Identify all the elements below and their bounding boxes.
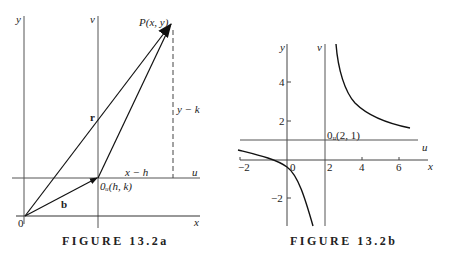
y-tick-neg2: −2 bbox=[271, 193, 283, 204]
figures-canvas bbox=[0, 0, 449, 255]
y-tick-4: 4 bbox=[279, 77, 285, 88]
v-axis-label-a: v bbox=[90, 14, 95, 25]
x-tick-2: 2 bbox=[327, 162, 333, 173]
v-axis-label-b: v bbox=[317, 42, 322, 53]
y-tick-2: 2 bbox=[279, 116, 285, 127]
x-tick-0: 0 bbox=[290, 162, 296, 173]
x-tick-4: 4 bbox=[359, 162, 365, 173]
vector-p-from-shifted bbox=[98, 24, 171, 178]
caption-figure-a: FIGURE 13.2a bbox=[62, 234, 169, 249]
caption-figure-b: FIGURE 13.2b bbox=[290, 234, 397, 249]
y-axis-label-b: y bbox=[280, 42, 285, 53]
origin-shifted-label-b: 0ᵤ(2, 1) bbox=[327, 130, 360, 141]
x-tick-6: 6 bbox=[396, 162, 402, 173]
origin-label-a: 0 bbox=[18, 218, 24, 229]
vector-b bbox=[25, 178, 97, 216]
vector-b-label: b bbox=[61, 199, 67, 210]
x-axis-label-b: x bbox=[428, 161, 433, 172]
hyperbola-right-branch bbox=[336, 44, 410, 128]
point-p-label: P(x, y) bbox=[139, 17, 168, 28]
u-axis-label-a: u bbox=[192, 167, 198, 178]
y-axis-label-a: y bbox=[16, 14, 21, 25]
vector-r-label: r bbox=[90, 112, 95, 123]
u-axis-label-b: u bbox=[422, 142, 428, 153]
dx-label: x − h bbox=[125, 167, 148, 178]
figure-a bbox=[12, 16, 200, 228]
x-tick-neg2: −2 bbox=[238, 162, 250, 173]
origin-shifted-label-a: 0ᵤ(h, k) bbox=[100, 181, 132, 192]
x-axis-label-a: x bbox=[194, 217, 199, 228]
dy-label: y − k bbox=[177, 104, 200, 115]
